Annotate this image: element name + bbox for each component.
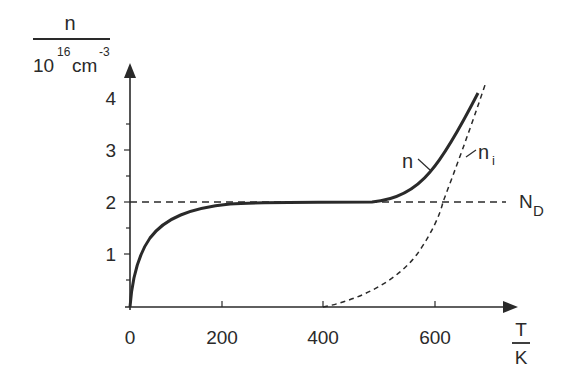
chart: n 10 16 cm -3 1 2 3 4 0 200 400 600 xyxy=(0,0,574,382)
n-leader-line xyxy=(418,159,430,170)
n-curve-label: n xyxy=(402,150,413,172)
n-curve xyxy=(130,93,478,307)
x-tick-label: 600 xyxy=(419,327,451,348)
y-tick-labels: 1 2 3 4 xyxy=(105,88,116,265)
nd-label: N xyxy=(519,191,533,212)
y-axis-arrow-icon xyxy=(124,63,136,78)
x-label-denominator: K xyxy=(515,347,528,368)
nd-label-sub: D xyxy=(533,202,544,219)
ni-curve-label: n xyxy=(478,141,489,163)
x-tick-label: 400 xyxy=(307,327,339,348)
x-axis-label: T K xyxy=(512,319,530,368)
y-tick-label: 2 xyxy=(105,192,116,213)
x-ticks xyxy=(222,301,435,307)
y-label-unit: cm xyxy=(72,55,97,76)
x-tick-label: 0 xyxy=(125,327,136,348)
x-label-numerator: T xyxy=(515,319,527,340)
y-tick-label: 4 xyxy=(105,88,116,109)
x-tick-labels: 0 200 400 600 xyxy=(125,327,451,348)
y-tick-label: 1 xyxy=(105,244,116,265)
y-tick-label: 3 xyxy=(105,140,116,161)
ni-leader-line xyxy=(466,150,476,157)
y-label-numerator: n xyxy=(64,12,75,34)
y-ticks xyxy=(124,124,130,280)
y-label-base: 10 xyxy=(33,55,54,76)
y-label-unit-exp: -3 xyxy=(99,45,110,59)
ni-curve-label-sub: i xyxy=(492,153,495,168)
y-axis-label: n 10 16 cm -3 xyxy=(33,12,110,76)
x-axis-arrow-icon xyxy=(503,301,518,313)
x-tick-label: 200 xyxy=(206,327,238,348)
axes xyxy=(125,74,508,310)
y-label-exp: 16 xyxy=(57,45,71,59)
